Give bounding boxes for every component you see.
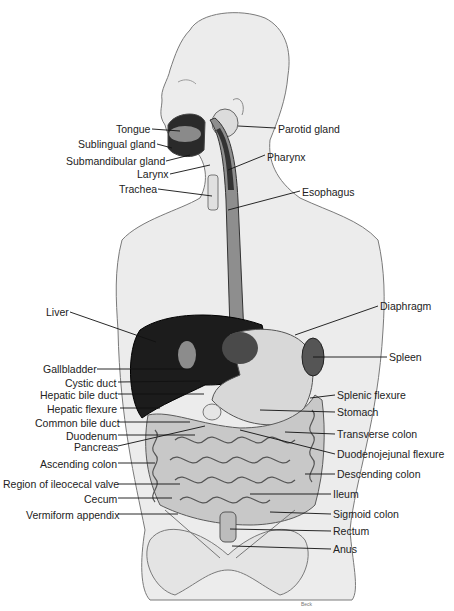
label-ileum: Ileum <box>333 488 359 500</box>
label-rectum: Rectum <box>333 525 369 537</box>
label-transverse-colon: Transverse colon <box>337 428 417 440</box>
label-descending-colon: Descending colon <box>337 468 420 480</box>
label-sigmoid-colon: Sigmoid colon <box>333 508 399 520</box>
label-spleen: Spleen <box>389 351 422 363</box>
label-diaphragm: Diaphragm <box>380 300 431 312</box>
stomach-upper <box>222 332 258 364</box>
pancreas <box>203 404 221 420</box>
label-pancreas: Pancreas <box>74 441 118 453</box>
label-splenic-flexure: Splenic flexure <box>337 389 406 401</box>
label-cystic-duct: Cystic duct <box>65 377 116 389</box>
label-gallbladder: Gallbladder <box>43 363 97 375</box>
label-duodenojejunal-flexure: Duodenojejunal flexure <box>337 448 444 460</box>
trachea <box>208 175 218 210</box>
tongue <box>169 126 201 142</box>
label-hepatic-bile-duct: Hepatic bile duct <box>40 389 118 401</box>
label-pharynx: Pharynx <box>267 151 306 163</box>
label-anus: Anus <box>333 543 357 555</box>
label-parotid-gland: Parotid gland <box>278 123 340 135</box>
label-ascending-colon: Ascending colon <box>40 458 117 470</box>
label-ileocecal-valve: Region of ileocecal valve <box>3 478 119 490</box>
artist-signature: Beck <box>301 601 312 607</box>
label-sublingual-gland: Sublingual gland <box>78 138 156 150</box>
rectum <box>220 512 236 542</box>
label-tongue: Tongue <box>116 123 150 135</box>
label-vermiform-appendix: Vermiform appendix <box>26 509 119 521</box>
gallbladder <box>178 341 196 369</box>
label-hepatic-flexure: Hepatic flexure <box>47 403 117 415</box>
label-trachea: Trachea <box>119 183 157 195</box>
label-submandibular-gland: Submandibular gland <box>66 155 165 167</box>
label-esophagus: Esophagus <box>302 186 355 198</box>
label-stomach: Stomach <box>337 406 378 418</box>
label-common-bile-duct: Common bile duct <box>35 417 120 429</box>
label-cecum: Cecum <box>84 493 117 505</box>
label-liver: Liver <box>46 306 69 318</box>
label-larynx: Larynx <box>137 168 169 180</box>
